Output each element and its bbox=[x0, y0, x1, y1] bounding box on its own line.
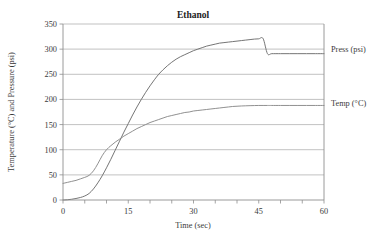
chart-figure: Ethanol Temperature (°C) and Pressure (p… bbox=[0, 0, 392, 239]
x-axis-title: Time (sec) bbox=[175, 221, 211, 230]
y-tick-label-0: 0 bbox=[53, 196, 57, 205]
y-axis-ticks: 050100150200250300350 bbox=[45, 20, 63, 205]
y-axis-title: Temperature (°C) and Pressure (psi) bbox=[7, 52, 16, 172]
x-axis-minor-ticks bbox=[63, 200, 324, 204]
x-tick-label-15: 15 bbox=[124, 207, 132, 216]
x-tick-label-0: 0 bbox=[61, 207, 65, 216]
y-tick-label-150: 150 bbox=[45, 121, 57, 130]
x-tick-label-45: 45 bbox=[255, 207, 263, 216]
y-tick-label-100: 100 bbox=[45, 146, 57, 155]
y-tick-label-200: 200 bbox=[45, 95, 57, 104]
y-tick-label-250: 250 bbox=[45, 70, 57, 79]
y-tick-label-350: 350 bbox=[45, 20, 57, 29]
y-tick-label-50: 50 bbox=[49, 171, 57, 180]
ethanol-line-chart: Ethanol Temperature (°C) and Pressure (p… bbox=[0, 0, 392, 239]
series-label-press: Press (psi) bbox=[331, 45, 366, 54]
y-tick-label-300: 300 bbox=[45, 45, 57, 54]
x-axis-tick-labels: 015304560 bbox=[61, 207, 328, 216]
series-label-temp: Temp (°C) bbox=[331, 99, 366, 108]
x-tick-label-30: 30 bbox=[189, 207, 197, 216]
x-tick-label-60: 60 bbox=[320, 207, 328, 216]
chart-title: Ethanol bbox=[177, 10, 210, 20]
